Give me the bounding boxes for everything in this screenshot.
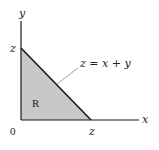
equation-label: z = x + y [79, 57, 131, 70]
origin-label: 0 [10, 125, 16, 137]
x-intercept-label: z [88, 125, 95, 138]
x-axis-label: x [142, 113, 149, 126]
y-intercept-label: z [9, 42, 16, 55]
region-diagram: y z 0 z x R z = x + y [0, 0, 159, 150]
label-leader-line [57, 68, 78, 84]
y-axis-label: y [18, 7, 26, 20]
region-label: R [32, 97, 40, 109]
